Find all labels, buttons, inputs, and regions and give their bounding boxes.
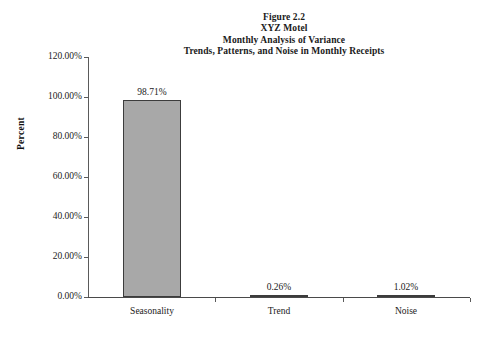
- x-axis-tick-mark: [343, 298, 344, 302]
- x-axis-category-label: Seasonality: [92, 305, 212, 318]
- x-axis-category-label: Noise: [346, 305, 466, 318]
- x-axis-category-label: Trend: [219, 305, 339, 318]
- y-axis-tick-label: 20.00%: [53, 250, 82, 263]
- chart-title-line-3: Monthly Analysis of Variance: [70, 35, 498, 46]
- y-axis-tick-label: 0.00%: [57, 290, 82, 303]
- y-axis-tick-label: 100.00%: [48, 90, 82, 103]
- y-axis-tick-mark: [84, 297, 88, 298]
- bar-noise[interactable]: [377, 295, 435, 297]
- y-axis-tick-mark: [84, 257, 88, 258]
- plot-area: 0.00%20.00%40.00%60.00%80.00%100.00%120.…: [88, 57, 470, 298]
- bar-value-label: 1.02%: [366, 281, 446, 293]
- bar-value-label: 0.26%: [239, 281, 319, 293]
- x-axis-tick-mark: [470, 298, 471, 302]
- y-axis-title: Percent: [16, 136, 26, 150]
- chart-title-line-2: XYZ Motel: [70, 23, 498, 34]
- chart-title-line-4: Trends, Patterns, and Noise in Monthly R…: [70, 46, 498, 57]
- y-axis-tick-label: 80.00%: [53, 130, 82, 143]
- y-axis-tick-label: 40.00%: [53, 210, 82, 223]
- y-axis-tick-mark: [84, 57, 88, 58]
- y-axis-tick-label: 60.00%: [53, 170, 82, 183]
- chart-title-line-1: Figure 2.2: [70, 12, 498, 23]
- y-axis-tick-label: 120.00%: [48, 50, 82, 63]
- y-axis-tick-mark: [84, 217, 88, 218]
- bar-seasonality[interactable]: [123, 100, 181, 297]
- bar-trend[interactable]: [250, 295, 308, 297]
- y-axis-tick-mark: [84, 177, 88, 178]
- bar-value-label: 98.71%: [112, 86, 192, 98]
- y-axis-tick-mark: [84, 137, 88, 138]
- y-axis-tick-mark: [84, 97, 88, 98]
- x-axis-tick-mark: [215, 298, 216, 302]
- y-axis-line: [88, 57, 89, 298]
